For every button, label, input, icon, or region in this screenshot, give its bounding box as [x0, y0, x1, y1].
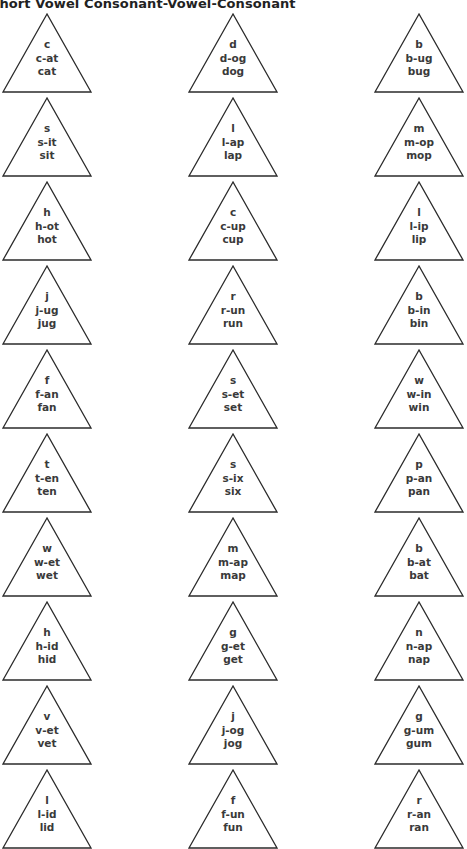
word-triangle: bb-atbat	[374, 517, 464, 597]
word-triangle: jj-ugjug	[2, 265, 92, 345]
word-triangle: rr-anran	[374, 769, 464, 849]
onset-letter: j	[188, 710, 278, 724]
whole-word: win	[374, 401, 464, 415]
onset-letter: t	[2, 458, 92, 472]
word-triangle: pp-anpan	[374, 433, 464, 513]
onset-letter: w	[2, 542, 92, 556]
word-triangle: mm-opmop	[374, 97, 464, 177]
onset-letter: b	[374, 290, 464, 304]
word-triangle: ll-iplip	[374, 181, 464, 261]
page-title: Short Vowel Consonant-Vowel-Consonant	[0, 0, 296, 11]
whole-word: cat	[2, 65, 92, 79]
onset-letter: g	[188, 626, 278, 640]
whole-word: dog	[188, 65, 278, 79]
onset-letter: s	[2, 122, 92, 136]
segmented-word: c-at	[2, 52, 92, 66]
triangle-text: bb-inbin	[374, 290, 464, 331]
onset-letter: c	[2, 38, 92, 52]
segmented-word: j-ug	[2, 304, 92, 318]
triangle-text: ll-iplip	[374, 206, 464, 247]
triangle-text: ll-idlid	[2, 794, 92, 835]
whole-word: lap	[188, 149, 278, 163]
segmented-word: r-an	[374, 808, 464, 822]
whole-word: jog	[188, 737, 278, 751]
whole-word: bug	[374, 65, 464, 79]
segmented-word: j-og	[188, 724, 278, 738]
word-triangle: ww-inwin	[374, 349, 464, 429]
whole-word: set	[188, 401, 278, 415]
onset-letter: c	[188, 206, 278, 220]
segmented-word: w-et	[2, 556, 92, 570]
word-triangle: jj-ogjog	[188, 685, 278, 765]
triangle-text: pp-anpan	[374, 458, 464, 499]
onset-letter: l	[188, 122, 278, 136]
whole-word: get	[188, 653, 278, 667]
onset-letter: m	[188, 542, 278, 556]
word-triangle: bb-ugbug	[374, 13, 464, 93]
onset-letter: b	[374, 542, 464, 556]
onset-letter: g	[374, 710, 464, 724]
word-triangle: nn-apnap	[374, 601, 464, 681]
whole-word: bin	[374, 317, 464, 331]
onset-letter: f	[188, 794, 278, 808]
segmented-word: l-id	[2, 808, 92, 822]
whole-word: vet	[2, 737, 92, 751]
whole-word: sit	[2, 149, 92, 163]
whole-word: ten	[2, 485, 92, 499]
segmented-word: v-et	[2, 724, 92, 738]
onset-letter: s	[188, 458, 278, 472]
onset-letter: d	[188, 38, 278, 52]
onset-letter: w	[374, 374, 464, 388]
onset-letter: n	[374, 626, 464, 640]
onset-letter: m	[374, 122, 464, 136]
word-triangle: gg-umgum	[374, 685, 464, 765]
segmented-word: h-id	[2, 640, 92, 654]
triangle-text: cc-upcup	[188, 206, 278, 247]
triangle-text: ww-etwet	[2, 542, 92, 583]
triangle-text: jj-ogjog	[188, 710, 278, 751]
whole-word: hid	[2, 653, 92, 667]
segmented-word: b-in	[374, 304, 464, 318]
whole-word: cup	[188, 233, 278, 247]
triangle-text: hh-idhid	[2, 626, 92, 667]
triangle-text: dd-ogdog	[188, 38, 278, 79]
segmented-word: c-up	[188, 220, 278, 234]
onset-letter: r	[188, 290, 278, 304]
whole-word: fun	[188, 821, 278, 835]
segmented-word: f-an	[2, 388, 92, 402]
whole-word: lip	[374, 233, 464, 247]
triangle-text: nn-apnap	[374, 626, 464, 667]
word-triangle: mm-apmap	[188, 517, 278, 597]
triangle-text: bb-ugbug	[374, 38, 464, 79]
triangle-text: rr-anran	[374, 794, 464, 835]
triangle-text: ll-aplap	[188, 122, 278, 163]
word-triangle: rr-unrun	[188, 265, 278, 345]
word-triangle: ff-anfan	[2, 349, 92, 429]
onset-letter: s	[188, 374, 278, 388]
whole-word: hot	[2, 233, 92, 247]
triangle-text: hh-othot	[2, 206, 92, 247]
whole-word: mop	[374, 149, 464, 163]
triangle-text: ff-anfan	[2, 374, 92, 415]
whole-word: gum	[374, 737, 464, 751]
word-triangle: ll-aplap	[188, 97, 278, 177]
segmented-word: s-ix	[188, 472, 278, 486]
word-triangle: gg-etget	[188, 601, 278, 681]
segmented-word: m-ap	[188, 556, 278, 570]
triangle-text: ww-inwin	[374, 374, 464, 415]
segmented-word: g-um	[374, 724, 464, 738]
whole-word: pan	[374, 485, 464, 499]
triangle-text: bb-atbat	[374, 542, 464, 583]
word-triangle: tt-enten	[2, 433, 92, 513]
onset-letter: f	[2, 374, 92, 388]
triangle-text: mm-apmap	[188, 542, 278, 583]
onset-letter: h	[2, 206, 92, 220]
onset-letter: l	[374, 206, 464, 220]
whole-word: run	[188, 317, 278, 331]
triangle-text: ff-unfun	[188, 794, 278, 835]
onset-letter: l	[2, 794, 92, 808]
segmented-word: l-ip	[374, 220, 464, 234]
onset-letter: h	[2, 626, 92, 640]
word-triangle: ff-unfun	[188, 769, 278, 849]
onset-letter: v	[2, 710, 92, 724]
